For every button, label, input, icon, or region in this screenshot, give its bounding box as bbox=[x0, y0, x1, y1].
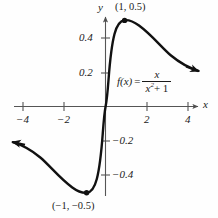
y-tick-label-neg0.2: −0.2 bbox=[112, 135, 133, 146]
formula-numerator: x bbox=[150, 69, 163, 81]
marked-point-min bbox=[84, 190, 89, 195]
function-formula: f(x) = x x2+ 1 bbox=[117, 69, 171, 94]
x-tick-label-4: 4 bbox=[185, 114, 191, 125]
marked-point-max bbox=[122, 18, 127, 23]
x-axis-label: x bbox=[203, 99, 208, 110]
plot-canvas bbox=[0, 0, 218, 218]
min-point-label: (−1, −0.5) bbox=[52, 201, 94, 212]
y-axis-label: y bbox=[98, 2, 103, 13]
x-tick-label-neg2: −2 bbox=[57, 114, 70, 125]
formula-denominator: x2+ 1 bbox=[142, 82, 171, 94]
y-tick-label-0.4: 0.4 bbox=[79, 32, 93, 43]
formula-fraction: x x2+ 1 bbox=[142, 69, 171, 94]
formula-denominator-tail: + 1 bbox=[154, 81, 168, 93]
function-graph-figure: y x (1, 0.5) (−1, −0.5) 0.4 0.2 −0.2 −0.… bbox=[0, 0, 218, 218]
formula-lhs: f(x) bbox=[117, 76, 132, 87]
x-tick-label-2: 2 bbox=[144, 114, 150, 125]
x-tick-label-neg4: −4 bbox=[16, 114, 29, 125]
max-point-label: (1, 0.5) bbox=[115, 2, 146, 13]
y-tick-label-neg0.4: −0.4 bbox=[112, 169, 133, 180]
formula-equals: = bbox=[134, 76, 140, 87]
y-tick-label-0.2: 0.2 bbox=[79, 67, 93, 78]
